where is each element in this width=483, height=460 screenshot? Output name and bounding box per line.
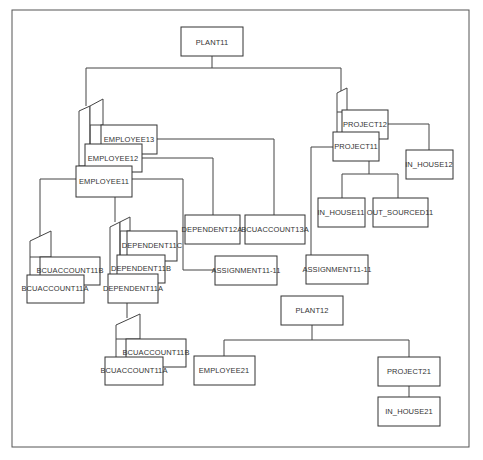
hierarchy-diagram: PLANT11 EMPLOYEE13 EMPLOYEE12 EMPLOYEE11… bbox=[0, 0, 483, 460]
node-label: IN_HOUSE21 bbox=[385, 407, 433, 416]
node-label: PROJECT12 bbox=[343, 120, 387, 129]
node-label: PLANT12 bbox=[295, 306, 328, 315]
node-in-house11[interactable]: IN_HOUSE11 bbox=[317, 198, 365, 227]
node-bcuaccount13a[interactable]: BCUACCOUNT13A bbox=[241, 215, 309, 244]
node-label: EMPLOYEE11 bbox=[79, 177, 129, 186]
node-label: IN_HOUSE11 bbox=[317, 208, 364, 217]
node-employee21[interactable]: EMPLOYEE21 bbox=[194, 356, 255, 385]
node-project11[interactable]: PROJECT11 bbox=[333, 132, 379, 161]
twin-flag bbox=[337, 88, 347, 112]
node-label: BCUACCOUNT11A bbox=[100, 366, 167, 375]
node-plant12[interactable]: PLANT12 bbox=[281, 296, 343, 325]
node-label: EMPLOYEE13 bbox=[104, 135, 155, 144]
twin-flag bbox=[90, 99, 103, 125]
node-label: EMPLOYEE12 bbox=[88, 154, 139, 163]
node-project21[interactable]: PROJECT21 bbox=[378, 357, 440, 386]
node-dependent12a[interactable]: DEPENDENT12A bbox=[182, 215, 243, 244]
connector bbox=[142, 158, 213, 215]
node-label: ASSIGNMENT11-11 bbox=[302, 265, 371, 274]
diagram-canvas: PLANT11 EMPLOYEE13 EMPLOYEE12 EMPLOYEE11… bbox=[0, 0, 483, 460]
twin-flag bbox=[120, 217, 130, 231]
node-assignment11-11-emp[interactable]: ASSIGNMENT11-11 bbox=[211, 256, 280, 285]
node-label: DEPENDENT11C bbox=[122, 241, 183, 250]
node-label: PROJECT21 bbox=[387, 367, 431, 376]
connector bbox=[157, 139, 274, 215]
node-label: IN_HOUSE12 bbox=[405, 160, 453, 169]
node-bcuaccount11a-emp[interactable]: BCUACCOUNT11A bbox=[21, 275, 88, 303]
node-plant11[interactable]: PLANT11 bbox=[181, 27, 243, 56]
node-in-house12[interactable]: IN_HOUSE12 bbox=[405, 150, 453, 179]
node-label: ASSIGNMENT11-11 bbox=[211, 266, 280, 275]
connector bbox=[40, 179, 76, 238]
node-label: OUT_SOURCED11 bbox=[367, 208, 434, 217]
node-bcuaccount11a-dep[interactable]: BCUACCOUNT11A bbox=[100, 357, 167, 385]
node-assignment11-11-proj[interactable]: ASSIGNMENT11-11 bbox=[302, 255, 371, 284]
node-label: DEPENDENT12A bbox=[182, 225, 243, 234]
node-in-house21[interactable]: IN_HOUSE21 bbox=[378, 397, 440, 426]
connector bbox=[388, 124, 429, 150]
node-dependent11a[interactable]: DEPENDENT11A bbox=[103, 274, 163, 303]
node-label: BCUACCOUNT11B bbox=[36, 266, 103, 275]
node-label: EMPLOYEE21 bbox=[199, 366, 250, 375]
twin-flag bbox=[116, 314, 140, 339]
node-employee11[interactable]: EMPLOYEE11 bbox=[76, 166, 132, 197]
node-out-sourced11[interactable]: OUT_SOURCED11 bbox=[367, 198, 434, 227]
node-label: PLANT11 bbox=[196, 38, 229, 47]
node-label: BCUACCOUNT11B bbox=[122, 348, 189, 357]
node-label: DEPENDENT11B bbox=[111, 264, 171, 273]
node-label: DEPENDENT11A bbox=[103, 284, 163, 293]
node-label: PROJECT11 bbox=[334, 142, 378, 151]
connector bbox=[224, 340, 409, 357]
node-label: BCUACCOUNT13A bbox=[241, 225, 309, 234]
node-label: BCUACCOUNT11A bbox=[21, 284, 88, 293]
connector bbox=[342, 174, 398, 198]
